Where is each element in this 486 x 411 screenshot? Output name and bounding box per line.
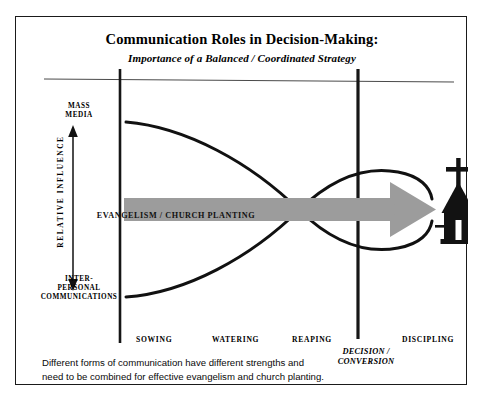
x-axis-stage-reaping: REAPING <box>292 335 332 344</box>
church-with-cross-icon <box>435 158 468 244</box>
footer-caption: Different forms of communication have di… <box>42 356 332 383</box>
y-axis-top-label: MASS MEDIA <box>40 102 118 120</box>
y-axis-bottom-label-line3: COMMUNICATIONS <box>32 293 126 302</box>
chart-graphics <box>16 17 468 386</box>
y-axis-bottom-label-line2: PERSONAL <box>32 284 126 293</box>
y-axis-top-label-line1: MASS <box>40 102 118 111</box>
x-axis-stage-watering: WATERING <box>212 335 259 344</box>
footer-caption-line1: Different forms of communication have di… <box>42 356 332 370</box>
mass-media-curve <box>126 122 432 250</box>
y-axis-bottom-label: INTER- PERSONAL COMMUNICATIONS <box>32 275 126 302</box>
header-divider <box>44 79 454 82</box>
x-axis-stage-discipling: DISCIPLING <box>402 335 454 344</box>
y-axis-title: RELATIVE INFLUENCE <box>56 132 65 252</box>
evangelism-arrow-label: EVANGELISM / CHURCH PLANTING <box>66 211 286 220</box>
x-axis-stage-sowing: SOWING <box>136 335 172 344</box>
relative-influence-arrow <box>68 125 78 291</box>
y-axis-top-label-line2: MEDIA <box>40 111 118 120</box>
arrow-up-icon <box>68 125 78 137</box>
y-axis-bottom-label-line1: INTER- <box>32 275 126 284</box>
footer-caption-line2: need to be combined for effective evange… <box>42 370 332 384</box>
interpersonal-curve <box>126 170 432 297</box>
diagram-canvas: Communication Roles in Decision-Making: … <box>0 0 486 411</box>
diagram-frame: Communication Roles in Decision-Making: … <box>15 16 467 385</box>
